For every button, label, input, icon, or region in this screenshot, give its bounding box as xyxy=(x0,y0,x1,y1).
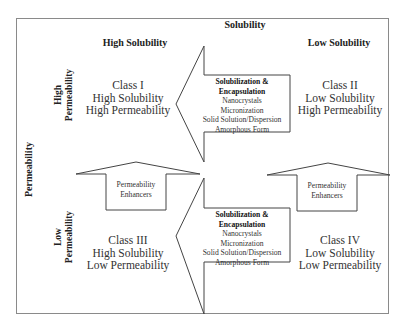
technique-micronization: Micronization xyxy=(195,106,289,116)
technique-amorphous: Amorphous Form xyxy=(195,125,289,135)
solubilization-text-top: Solubilization & Encapsulation Nanocryst… xyxy=(195,77,289,135)
technique-solid-solution: Solid Solution/Dispersion xyxy=(195,248,289,258)
solubilization-text-bottom: Solubilization & Encapsulation Nanocryst… xyxy=(195,210,289,268)
class-4-name: Class IV xyxy=(292,234,388,247)
row-header-low-line2: Permeability xyxy=(64,202,75,272)
class-2-solubility: Low Solubility xyxy=(292,92,388,105)
class-3-permeability: Low Permeability xyxy=(80,259,176,272)
class-4-cell: Class IV Low Solubility Low Permeability xyxy=(292,234,388,272)
permeability-enhancers-left: Permeability Enhancers xyxy=(106,180,166,199)
solubility-axis-label: Solubility xyxy=(210,19,280,30)
technique-nanocrystals: Nanocrystals xyxy=(195,229,289,239)
permeability-enhancers-right: Permeability Enhancers xyxy=(297,181,357,200)
row-header-low-line1: Low xyxy=(53,202,64,272)
technique-nanocrystals: Nanocrystals xyxy=(195,96,289,106)
class-2-name: Class II xyxy=(292,79,388,92)
enhancer-line2: Enhancers xyxy=(297,191,357,201)
row-header-high-line1: High xyxy=(53,60,64,130)
class-1-permeability: High Permeability xyxy=(80,104,176,117)
class-3-name: Class III xyxy=(80,234,176,247)
class-2-permeability: High Permeability xyxy=(292,104,388,117)
solubilization-title-1: Solubilization & xyxy=(195,210,289,220)
enhancer-line1: Permeability xyxy=(106,180,166,190)
column-header-low-solubility: Low Solubility xyxy=(294,37,384,48)
class-3-solubility: High Solubility xyxy=(80,247,176,260)
solubilization-title-1: Solubilization & xyxy=(195,77,289,87)
class-4-permeability: Low Permeability xyxy=(292,259,388,272)
technique-solid-solution: Solid Solution/Dispersion xyxy=(195,115,289,125)
solubilization-title-2: Encapsulation xyxy=(195,87,289,97)
class-3-cell: Class III High Solubility Low Permeabili… xyxy=(80,234,176,272)
permeability-axis-label: Permeability xyxy=(23,130,34,210)
technique-micronization: Micronization xyxy=(195,239,289,249)
column-header-high-solubility: High Solubility xyxy=(80,37,190,48)
enhancer-line1: Permeability xyxy=(297,181,357,191)
row-header-low-permeability: Low Permeability xyxy=(53,202,75,272)
technique-amorphous: Amorphous Form xyxy=(195,258,289,268)
arrows-layer xyxy=(0,0,407,331)
class-1-solubility: High Solubility xyxy=(80,92,176,105)
class-2-cell: Class II Low Solubility High Permeabilit… xyxy=(292,79,388,117)
class-1-name: Class I xyxy=(80,79,176,92)
row-header-high-permeability: High Permeability xyxy=(53,60,75,130)
solubilization-title-2: Encapsulation xyxy=(195,220,289,230)
class-4-solubility: Low Solubility xyxy=(292,247,388,260)
class-1-cell: Class I High Solubility High Permeabilit… xyxy=(80,79,176,117)
enhancer-line2: Enhancers xyxy=(106,190,166,200)
row-header-high-line2: Permeability xyxy=(64,60,75,130)
